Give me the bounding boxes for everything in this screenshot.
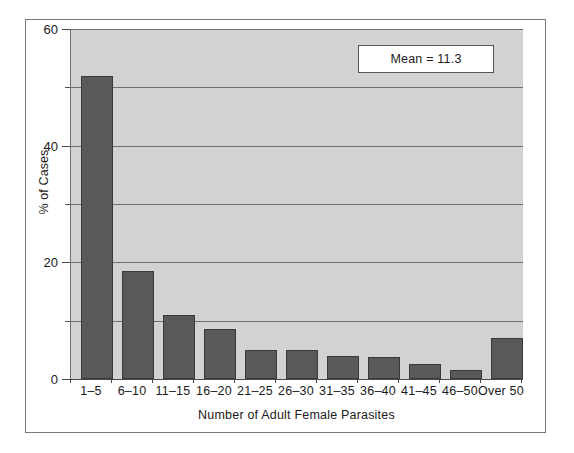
x-tick-2 — [152, 379, 153, 383]
y-axis-label-60: 60 — [18, 22, 58, 37]
y-tick-20 — [62, 262, 70, 263]
y-tick-0 — [62, 379, 70, 380]
y-tick-40 — [62, 146, 70, 147]
mean-annotation-box: Mean = 11.3 — [358, 45, 494, 73]
bar-6-10 — [122, 271, 154, 379]
y-axis-label-20: 20 — [18, 255, 58, 270]
bar-1-5 — [81, 76, 113, 379]
bar-36-40 — [368, 357, 400, 379]
x-tick-0 — [70, 379, 71, 383]
bars-layer — [70, 29, 523, 379]
bar-46-50 — [450, 370, 482, 379]
bar-11-15 — [163, 315, 195, 379]
x-tick-3 — [193, 379, 194, 383]
x-tick-10 — [480, 379, 481, 383]
y-tick-60 — [62, 29, 70, 30]
bar-26-30 — [286, 350, 318, 379]
x-axis-line — [70, 379, 523, 380]
mean-annotation-text: Mean = 11.3 — [390, 52, 461, 66]
x-tick-11 — [521, 379, 522, 383]
y-axis-title: % of Cases — [37, 122, 51, 242]
bar-41-45 — [409, 364, 441, 379]
x-tick-4 — [234, 379, 235, 383]
x-tick-6 — [316, 379, 317, 383]
x-tick-1 — [111, 379, 112, 383]
bar-31-35 — [327, 356, 359, 379]
y-axis-label-0: 0 — [18, 372, 58, 387]
x-tick-9 — [439, 379, 440, 383]
x-axis-title: Number of Adult Female Parasites — [70, 408, 523, 422]
chart-figure: 60 40 20 0 % of Cases 1–5 6–10 11–15 16–… — [0, 0, 574, 453]
bar-over-50 — [491, 338, 523, 379]
x-tick-8 — [398, 379, 399, 383]
x-tick-7 — [357, 379, 358, 383]
x-axis-label-over-50: Over 50 — [473, 384, 529, 398]
bar-16-20 — [204, 329, 236, 379]
x-tick-5 — [275, 379, 276, 383]
bar-21-25 — [245, 350, 277, 379]
